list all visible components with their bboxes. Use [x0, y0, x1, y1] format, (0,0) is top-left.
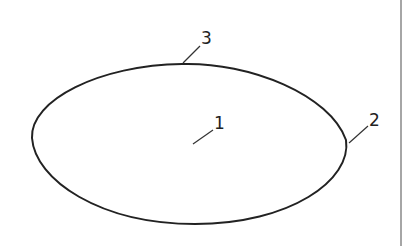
diagram-canvas: 3 1 2 — [0, 0, 408, 246]
leader-line-1 — [193, 130, 213, 144]
leader-line-3 — [183, 46, 200, 63]
ellipse-outline — [32, 64, 346, 224]
label-2: 2 — [369, 110, 380, 130]
leader-line-2 — [349, 126, 368, 143]
label-1: 1 — [214, 113, 225, 133]
label-3: 3 — [201, 28, 212, 48]
